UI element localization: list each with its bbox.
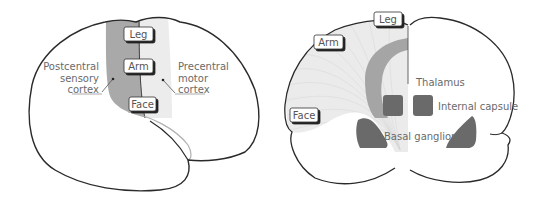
coronal-leg-label: Leg bbox=[379, 14, 397, 25]
coronal-brain-diagram: Thalamus Internal capsule Basal ganglion… bbox=[280, 12, 518, 184]
postcentral-label-line2: sensory bbox=[60, 73, 99, 84]
basal-ganglion-label: Basal ganglion bbox=[384, 131, 457, 142]
thalamus-right bbox=[413, 95, 433, 116]
precentral-label-line3: cortex bbox=[178, 84, 210, 95]
lateral-brain-diagram: Postcentral sensory cortex Precentral mo… bbox=[29, 15, 259, 191]
coronal-arm-label: Arm bbox=[318, 37, 339, 48]
thalamus-left bbox=[383, 95, 403, 116]
diagram-canvas: Postcentral sensory cortex Precentral mo… bbox=[0, 0, 545, 200]
precentral-pointer-dot bbox=[162, 79, 165, 82]
lateral-notch bbox=[490, 133, 502, 135]
postcentral-label-line3: cortex bbox=[67, 84, 99, 95]
precentral-label-line1: Precentral bbox=[178, 61, 229, 72]
coronal-face-label: Face bbox=[293, 110, 316, 121]
leg-label: Leg bbox=[130, 29, 148, 40]
postcentral-pointer-dot bbox=[112, 78, 115, 81]
postcentral-label-line1: Postcentral bbox=[43, 61, 99, 72]
lateral-fissure bbox=[128, 112, 191, 160]
arm-label: Arm bbox=[128, 61, 149, 72]
precentral-label-line2: motor bbox=[178, 73, 209, 84]
internal-capsule-label: Internal capsule bbox=[438, 101, 518, 112]
thalamus-label: Thalamus bbox=[415, 77, 465, 88]
face-label: Face bbox=[131, 99, 154, 110]
temporal-lobe-outline bbox=[150, 121, 188, 160]
